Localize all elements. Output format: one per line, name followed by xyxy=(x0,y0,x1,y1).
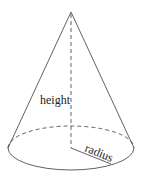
height-label: height xyxy=(40,93,71,107)
cone-right-side xyxy=(71,12,134,148)
cone-left-side xyxy=(8,12,71,148)
radius-label: radius xyxy=(83,141,116,165)
cone-diagram: height radius xyxy=(0,0,143,178)
